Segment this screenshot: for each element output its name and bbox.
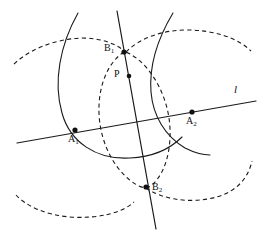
dashed-circle-through-B1-B2 (99, 52, 170, 188)
vertex-dots-group (72, 49, 194, 189)
point-label-A2: A2 (186, 116, 197, 126)
solid-arc-centered-A2 (151, 13, 210, 155)
dashed-arc-upper-right (126, 30, 251, 52)
line-label-l: l (234, 84, 237, 95)
point-dot-A2 (189, 109, 194, 114)
point-label-A1: A1 (68, 134, 79, 144)
point-label-P: P (114, 69, 120, 79)
dashed-arcs-group (14, 30, 252, 217)
point-dot-P (127, 74, 132, 79)
point-dot-A1 (72, 127, 77, 132)
geometric-figure-canvas: A1 A2 B1 P B2 l (0, 0, 263, 235)
point-label-B2: B2 (152, 182, 162, 192)
dashed-arc-lower-left (16, 195, 134, 217)
point-dot-B2 (143, 184, 148, 189)
point-dot-B1 (121, 49, 126, 54)
figure-svg (0, 0, 263, 235)
solid-arcs-group (58, 13, 210, 158)
point-label-B1: B1 (104, 43, 114, 53)
dashed-arc-lower-right (146, 161, 252, 200)
